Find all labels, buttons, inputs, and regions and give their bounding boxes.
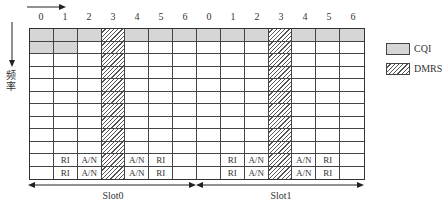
grid-cell <box>245 79 269 92</box>
grid-cell <box>340 79 364 92</box>
grid-cell <box>197 79 221 92</box>
grid-cell <box>197 167 221 180</box>
grid-cell <box>125 92 149 105</box>
grid-cell <box>173 154 197 167</box>
grid-cell <box>197 67 221 80</box>
grid-cell <box>316 129 340 142</box>
cqi-cell <box>78 29 102 42</box>
grid-cell <box>125 129 149 142</box>
grid-cell <box>340 129 364 142</box>
cqi-cell <box>54 29 78 42</box>
grid-cell <box>292 104 316 117</box>
grid-cell <box>78 67 102 80</box>
grid-cell <box>221 129 245 142</box>
grid-cell <box>149 42 173 55</box>
symbol-index: 3 <box>269 11 293 22</box>
symbol-index: 0 <box>29 11 53 22</box>
symbol-index: 0 <box>197 11 221 22</box>
grid-cell <box>173 42 197 55</box>
dmrs-cell <box>269 129 293 142</box>
grid-cell <box>30 167 54 180</box>
grid-cell <box>292 54 316 67</box>
grid-cell <box>316 142 340 155</box>
ri-cell: RI <box>316 167 340 180</box>
grid-cell <box>292 142 316 155</box>
grid-cell <box>149 129 173 142</box>
grid-cell <box>197 154 221 167</box>
grid-cell <box>221 54 245 67</box>
grid-cell <box>221 79 245 92</box>
grid-cell <box>30 92 54 105</box>
grid-cell <box>197 142 221 155</box>
grid-cell <box>149 117 173 130</box>
cqi-cell <box>197 29 221 42</box>
grid-cell <box>78 117 102 130</box>
frequency-axis-label: 频率 <box>5 70 17 92</box>
cqi-swatch <box>386 43 410 55</box>
grid-cell <box>173 54 197 67</box>
grid-cell <box>221 42 245 55</box>
dmrs-cell <box>102 67 126 80</box>
dmrs-cell <box>269 154 293 167</box>
grid-cell <box>197 129 221 142</box>
ack-nack-cell: A/N <box>292 167 316 180</box>
dmrs-cell <box>269 54 293 67</box>
slot1-span-arrow <box>195 180 367 190</box>
grid-cell <box>149 92 173 105</box>
grid-cell <box>292 67 316 80</box>
grid-cell <box>245 129 269 142</box>
ri-cell: RI <box>149 154 173 167</box>
grid-cell <box>245 142 269 155</box>
grid-cell <box>78 92 102 105</box>
grid-cell <box>149 67 173 80</box>
grid-cell <box>197 54 221 67</box>
grid-cell <box>149 104 173 117</box>
symbol-index: 6 <box>173 11 197 22</box>
dmrs-cell <box>102 79 126 92</box>
grid-cell <box>340 117 364 130</box>
cqi-cell <box>340 29 364 42</box>
dmrs-cell <box>269 92 293 105</box>
grid-cell <box>78 54 102 67</box>
grid-cell <box>173 167 197 180</box>
grid-cell <box>340 142 364 155</box>
grid-cell <box>54 117 78 130</box>
grid-cell <box>173 92 197 105</box>
symbol-index: 4 <box>125 11 149 22</box>
dmrs-cell <box>102 117 126 130</box>
ri-cell: RI <box>221 167 245 180</box>
grid-cell <box>125 79 149 92</box>
grid-cell <box>292 79 316 92</box>
symbol-index: 6 <box>341 11 365 22</box>
symbol-index: 3 <box>101 11 125 22</box>
frequency-arrow-icon <box>7 22 17 68</box>
grid-cell <box>173 67 197 80</box>
symbol-index: 5 <box>317 11 341 22</box>
cqi-cell <box>292 29 316 42</box>
grid-cell <box>54 129 78 142</box>
dmrs-cell <box>102 154 126 167</box>
ri-cell: RI <box>54 154 78 167</box>
ack-nack-cell: A/N <box>245 167 269 180</box>
grid-cell <box>54 142 78 155</box>
symbol-index: 2 <box>245 11 269 22</box>
cqi-cell <box>221 29 245 42</box>
dmrs-cell <box>102 92 126 105</box>
grid-cell <box>78 79 102 92</box>
cqi-cell <box>245 29 269 42</box>
grid-cell <box>292 42 316 55</box>
grid-cell <box>197 117 221 130</box>
cqi-cell <box>316 29 340 42</box>
grid-cell <box>173 129 197 142</box>
dmrs-cell <box>102 54 126 67</box>
grid-cell <box>173 79 197 92</box>
ack-nack-cell: A/N <box>125 167 149 180</box>
grid-cell <box>292 117 316 130</box>
slot0-span-arrow <box>27 180 199 190</box>
cqi-cell <box>125 29 149 42</box>
grid-cell <box>78 42 102 55</box>
ack-nack-cell: A/N <box>78 154 102 167</box>
cqi-cell <box>54 42 78 55</box>
ack-nack-cell: A/N <box>125 154 149 167</box>
grid-cell <box>30 54 54 67</box>
